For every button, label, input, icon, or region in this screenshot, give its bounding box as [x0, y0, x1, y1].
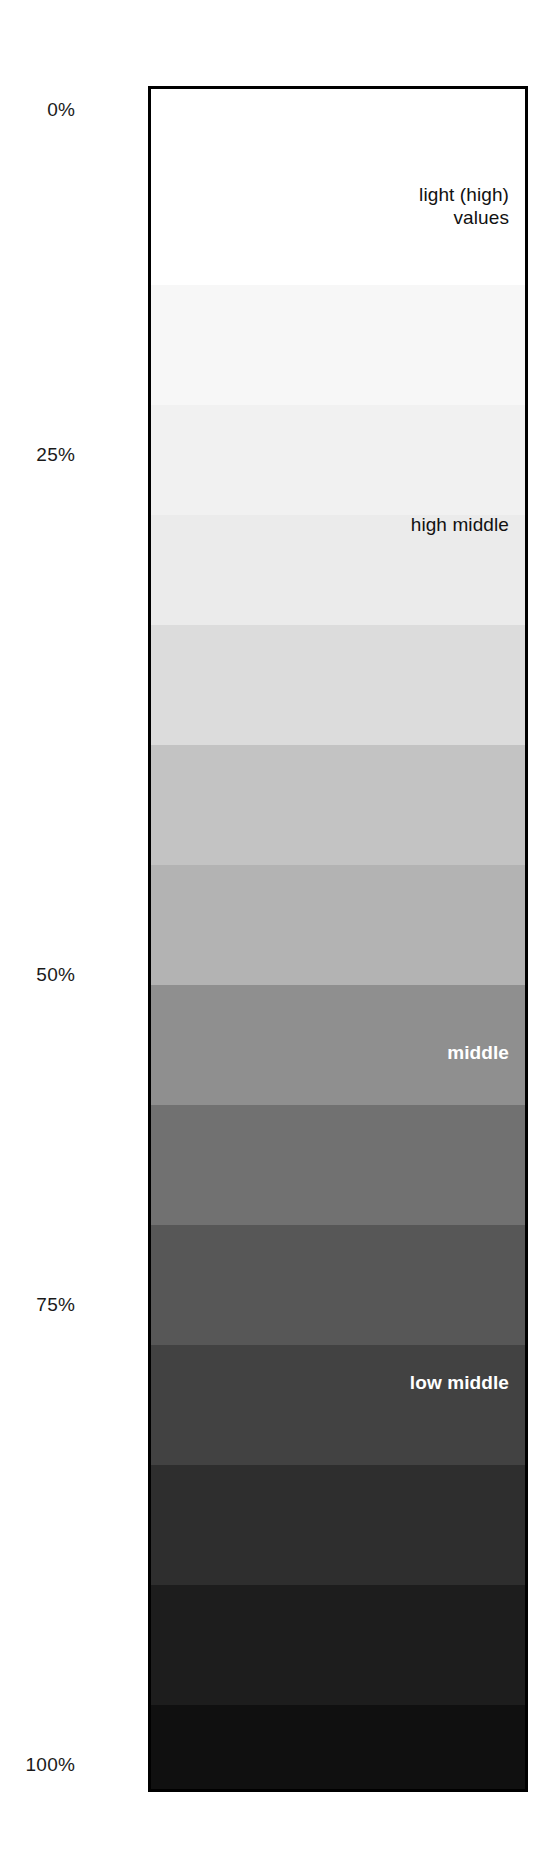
value-band-5pct [151, 285, 525, 405]
value-band-100pct [151, 1789, 525, 1792]
value-band-82pct [151, 1465, 525, 1585]
bar-label-light-high-values: light (high) values [419, 183, 509, 229]
axis-tick-label-25: 25% [36, 445, 75, 464]
bar-label-high-middle: high middle [411, 513, 509, 536]
value-band-89pct [151, 1585, 525, 1705]
axis-tick-label-50: 50% [36, 965, 75, 984]
value-band-28pct [151, 745, 525, 865]
axis-tick-label-100: 100% [26, 1755, 75, 1774]
value-ramp-bar: light (high) valueshigh middlemiddlelow … [148, 86, 528, 1792]
value-band-95pct [151, 1705, 525, 1789]
value-band-56pct [151, 1105, 525, 1225]
value-band-9pct [151, 405, 525, 515]
grayscale-value-scale-figure: 0%25%50%75%100% light (high) valueshigh … [0, 0, 548, 1874]
bar-label-middle: middle [447, 1041, 509, 1064]
percent-axis: 0%25%50%75%100% [0, 0, 148, 1874]
bar-label-low-middle: low middle [410, 1371, 509, 1394]
value-band-19pct [151, 625, 525, 745]
axis-tick-label-75: 75% [36, 1295, 75, 1314]
axis-tick-label-0: 0% [47, 100, 75, 119]
value-band-74pct [151, 1345, 525, 1465]
value-band-66pct [151, 1225, 525, 1345]
value-band-34pct [151, 865, 525, 985]
